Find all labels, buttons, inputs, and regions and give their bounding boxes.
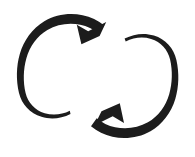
left-loop-arc bbox=[17, 14, 104, 118]
right-circular-arrow bbox=[91, 34, 178, 138]
icon-canvas: Cycle Arrows Icon bbox=[0, 0, 195, 157]
left-circular-arrow bbox=[17, 14, 106, 118]
right-loop-arrowhead bbox=[95, 103, 124, 125]
cycle-arrows-icon: Cycle Arrows Icon bbox=[0, 0, 195, 157]
right-loop-arc bbox=[91, 34, 178, 138]
